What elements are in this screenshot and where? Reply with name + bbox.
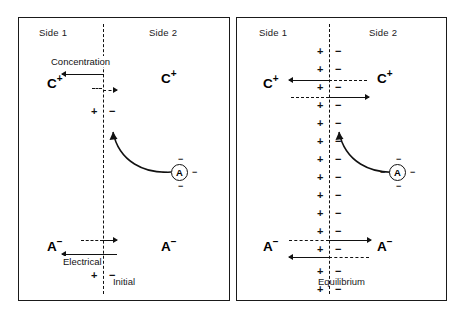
arrow-shaft [329, 257, 369, 258]
anion-symbol: A [47, 239, 57, 254]
anion-symbol: A [377, 239, 387, 254]
side2-label-initial: Side 2 [149, 27, 177, 38]
anion-satellite-right: − [410, 168, 415, 177]
membrane-charge-plus: + [317, 46, 323, 57]
membrane-charge-minus: − [335, 190, 341, 201]
anion-charge: − [171, 236, 177, 247]
arrow-shaft [289, 80, 329, 81]
membrane-charge-minus: − [109, 270, 115, 281]
caption-initial: Initial [19, 276, 229, 287]
anion-satellite-top: − [178, 155, 183, 164]
membrane-charge-plus: + [317, 118, 323, 129]
side2-label-equilibrium: Side 2 [369, 27, 397, 38]
cation-symbol: C [263, 76, 273, 91]
cation-charge: + [171, 68, 177, 79]
anion-satellite-left: − [162, 168, 167, 177]
arrow-shaft [329, 97, 369, 98]
membrane-charge-minus: − [335, 284, 341, 295]
membrane-charge-minus: − [335, 46, 341, 57]
arrow-head [113, 87, 118, 93]
arrow-head [61, 71, 66, 77]
anion-ion-symbol: A [394, 167, 401, 178]
cation-charge: + [387, 68, 393, 79]
anion-satellite-left: − [380, 168, 385, 177]
membrane-charge-plus: + [317, 226, 323, 237]
force-label-concentration: Concentration [50, 56, 111, 67]
arrow-shaft [92, 88, 102, 89]
arrow-head [288, 254, 293, 260]
arrow-shaft [289, 257, 329, 258]
membrane-charge-plus: + [317, 266, 323, 277]
anion-satellite-top: − [396, 155, 401, 164]
arrow-head [365, 94, 370, 100]
anion-satellite-right: − [192, 168, 197, 177]
membrane-charge-plus: + [91, 106, 97, 117]
membrane-charge-plus: + [317, 284, 323, 295]
anion-satellite-bottom: − [396, 182, 401, 191]
cation-symbol: C [161, 71, 171, 86]
membrane-charge-plus: + [317, 172, 323, 183]
panel-initial: Side 1 Side 2 C+ C+ A− A− Concentration [18, 17, 230, 301]
membrane-charge-minus: − [335, 136, 341, 147]
cation-label-side1-equilibrium: C+ [263, 73, 279, 91]
anion-charge: − [57, 236, 63, 247]
arrow-shaft [62, 74, 104, 75]
membrane-charge-minus: − [335, 226, 341, 237]
side1-label-equilibrium: Side 1 [259, 27, 287, 38]
arrow-shaft [291, 97, 329, 98]
membrane-charge-minus: − [109, 106, 115, 117]
membrane-charge-minus: − [335, 118, 341, 129]
membrane-charge-minus: − [335, 266, 341, 277]
membrane-charge-minus: − [335, 172, 341, 183]
membrane-charge-minus: − [335, 64, 341, 75]
membrane-charge-plus: + [317, 82, 323, 93]
membrane-charge-plus: + [91, 270, 97, 281]
cation-label-side2-equilibrium: C+ [377, 68, 393, 86]
anion-label-side2-equilibrium: A− [377, 236, 393, 254]
anion-ion-circle-initial: A [171, 164, 188, 181]
membrane-charge-plus: + [317, 64, 323, 75]
anion-label-side2-initial: A− [161, 236, 177, 254]
membrane-charge-plus: + [317, 136, 323, 147]
arrow-shaft [62, 254, 117, 255]
cation-symbol: C [377, 71, 387, 86]
membrane-charge-minus: − [335, 100, 341, 111]
anion-symbol: A [263, 239, 273, 254]
arrow-head [367, 237, 372, 243]
membrane-charge-minus: − [335, 208, 341, 219]
figure-canvas: Side 1 Side 2 C+ C+ A− A− Concentration [0, 0, 466, 317]
panel-equilibrium: Side 1 Side 2 C+ C+ A− A− [236, 17, 447, 301]
arrow-shaft [329, 240, 371, 241]
anion-label-side1-equilibrium: A− [263, 236, 279, 254]
arrow-shaft [81, 240, 103, 241]
arrow-shaft [289, 240, 329, 241]
arrow-head [288, 77, 293, 83]
anion-ion-circle-equilibrium: A [389, 164, 406, 181]
anion-satellite-bottom: − [178, 182, 183, 191]
side1-label-initial: Side 1 [39, 27, 67, 38]
membrane-charge-plus: + [317, 244, 323, 255]
anion-symbol: A [161, 239, 171, 254]
arrow-head [113, 237, 118, 243]
membrane-charge-minus: − [335, 154, 341, 165]
membrane-charge-plus: + [317, 208, 323, 219]
membrane-charge-minus: − [335, 82, 341, 93]
force-label-electrical: Electrical [62, 256, 103, 267]
membrane-charge-plus: + [317, 154, 323, 165]
anion-charge: − [387, 236, 393, 247]
membrane-charge-minus: − [335, 244, 341, 255]
anion-ion-symbol: A [176, 167, 183, 178]
membrane-charge-plus: + [317, 100, 323, 111]
anion-charge: − [273, 236, 279, 247]
cation-label-side2-initial: C+ [161, 68, 177, 86]
cation-charge: + [273, 73, 279, 84]
membrane-charge-plus: + [317, 190, 323, 201]
caption-equilibrium: Equilibrium [237, 276, 446, 287]
cation-symbol: C [47, 76, 57, 91]
